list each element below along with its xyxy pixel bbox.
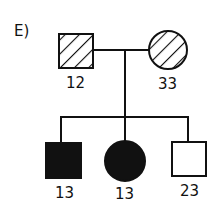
- mother-label: 33: [158, 75, 177, 93]
- panel-label: E): [14, 22, 29, 40]
- mother-circle: [149, 31, 187, 69]
- child-2-label: 13: [115, 185, 134, 203]
- child-3-square: [172, 142, 206, 176]
- father-label: 12: [66, 74, 85, 92]
- child-2-circle: [105, 141, 145, 181]
- father-square: [59, 34, 93, 68]
- child-1-label: 13: [55, 184, 74, 202]
- child-1-square: [46, 143, 81, 178]
- pedigree-diagram: E) 12 33 13 13 23: [0, 0, 220, 210]
- child-3-label: 23: [180, 182, 199, 200]
